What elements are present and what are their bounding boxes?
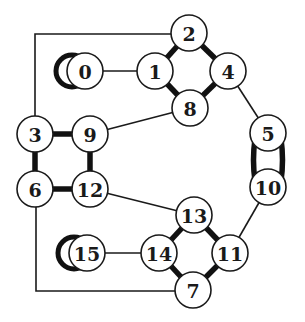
node-4: 4 <box>210 53 246 89</box>
node-12: 12 <box>72 171 108 207</box>
node-0: 0 <box>67 53 103 89</box>
node-label: 1 <box>148 61 161 83</box>
node-label: 7 <box>186 280 199 302</box>
graph-diagram: 0123456789101112131415 <box>0 0 305 322</box>
node-15: 15 <box>69 235 105 271</box>
node-3: 3 <box>17 116 53 152</box>
node-label: 11 <box>217 243 243 265</box>
node-label: 9 <box>83 124 96 146</box>
node-1: 1 <box>137 53 173 89</box>
node-label: 2 <box>182 23 195 45</box>
node-label: 5 <box>261 123 274 145</box>
node-label: 6 <box>28 179 41 201</box>
node-label: 3 <box>28 124 41 146</box>
node-2: 2 <box>171 15 207 51</box>
node-11: 11 <box>212 235 248 271</box>
node-label: 14 <box>146 243 172 265</box>
node-5: 5 <box>250 115 286 151</box>
node-8: 8 <box>172 90 208 126</box>
node-6: 6 <box>17 171 53 207</box>
node-label: 8 <box>183 98 196 120</box>
node-14: 14 <box>141 235 177 271</box>
node-label: 10 <box>255 177 281 199</box>
node-label: 13 <box>181 205 207 227</box>
node-label: 15 <box>74 243 100 265</box>
node-label: 0 <box>78 61 91 83</box>
node-10: 10 <box>250 169 286 205</box>
nodes-layer: 0123456789101112131415 <box>17 15 286 308</box>
node-9: 9 <box>72 116 108 152</box>
node-label: 12 <box>77 179 103 201</box>
node-13: 13 <box>176 197 212 233</box>
node-7: 7 <box>175 272 211 308</box>
node-label: 4 <box>221 61 234 83</box>
